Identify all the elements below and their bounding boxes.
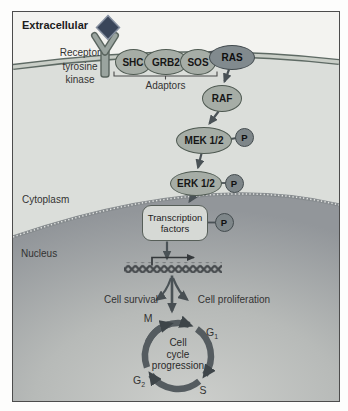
phase-g2-letter: G — [133, 374, 141, 386]
phosphate-badge-mek: P — [235, 128, 254, 147]
dna-strand — [124, 263, 222, 274]
cell-cycle-center-line3: progression — [152, 360, 204, 372]
erk-node: ERK 1/2 — [170, 171, 222, 196]
phase-g1-label: G1 — [206, 326, 218, 343]
cytoplasm-label: Cytoplasm — [22, 194, 69, 206]
cell-cycle-center-line2: cycle — [152, 349, 204, 361]
phase-g1-sub: 1 — [214, 333, 218, 340]
phase-s-label: S — [199, 384, 206, 396]
cell-cycle-center-line1: Cell — [152, 337, 204, 349]
receptor-label-line1: Receptor — [40, 46, 120, 60]
phosphate-badge-tf: P — [215, 213, 234, 232]
cell-survival-label: Cell survival — [104, 294, 158, 306]
transcription-factors-box: Transcription factors — [142, 205, 208, 241]
ras-node: RAS — [209, 45, 255, 70]
receptor-label-line3: kinase — [40, 73, 120, 87]
phase-g2-label: G2 — [133, 374, 145, 391]
cell-cycle-center-label: Cell cycle progression — [152, 337, 204, 372]
pathway-diagram-panel: Extracellular Cytoplasm Nucleus Receptor… — [12, 11, 340, 402]
raf-node: RAF — [202, 85, 242, 112]
extracellular-label: Extracellular — [22, 19, 88, 31]
phosphate-badge-erk: P — [225, 174, 244, 193]
phase-m-label: M — [144, 312, 153, 324]
phase-g2-sub: 2 — [141, 381, 145, 388]
receptor-label-line2: tyrosine — [40, 60, 120, 74]
nucleus-label: Nucleus — [21, 248, 57, 260]
figure: Extracellular Cytoplasm Nucleus Receptor… — [0, 0, 348, 411]
phase-g1-letter: G — [206, 326, 214, 338]
transcription-factors-line2: factors — [161, 223, 190, 234]
receptor-label: Receptor tyrosine kinase — [40, 46, 120, 87]
cell-proliferation-label: Cell proliferation — [198, 294, 270, 306]
mek-node: MEK 1/2 — [176, 127, 232, 154]
transcription-factors-line1: Transcription — [148, 212, 203, 223]
adaptors-label: Adaptors — [145, 80, 185, 92]
